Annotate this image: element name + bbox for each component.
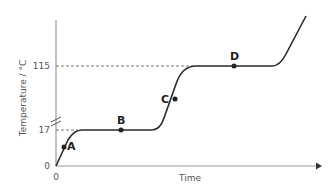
point-d-label: D [230, 50, 239, 63]
point-d [232, 64, 237, 69]
point-b-label: B [117, 114, 125, 127]
x-tick-0: 0 [53, 172, 59, 182]
heating-curve-chart: 115 17 0 0 Temperature / °C Time A B C D [0, 0, 335, 192]
y-tick-115: 115 [33, 61, 50, 71]
point-c-label: C [161, 93, 169, 106]
y-axis-title: Temperature / °C [18, 60, 28, 138]
x-axis-title: Time [178, 173, 201, 183]
y-tick-0: 0 [44, 161, 50, 171]
x-axis-arrow-icon [316, 163, 322, 170]
y-tick-17: 17 [39, 125, 50, 135]
point-b [119, 128, 124, 133]
point-a-label: A [67, 140, 76, 153]
point-a [62, 145, 67, 150]
point-c [173, 97, 178, 102]
heating-curve [56, 16, 306, 166]
